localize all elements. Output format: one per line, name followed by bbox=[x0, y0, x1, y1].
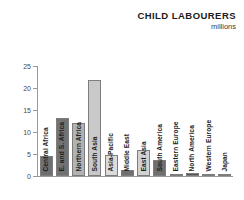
bar[interactable] bbox=[170, 174, 183, 176]
bar-category-label: Japan bbox=[221, 152, 228, 172]
x-axis-line bbox=[37, 176, 233, 177]
bar-category-label: South America bbox=[156, 124, 163, 172]
bar-category-label: South Asia bbox=[91, 137, 98, 172]
chart-header: CHILD LABOURERS millions bbox=[137, 10, 236, 32]
y-tick-label: 10 bbox=[23, 129, 31, 136]
bar-category-label: Western Europe bbox=[205, 120, 212, 172]
bar[interactable] bbox=[218, 174, 231, 176]
bar-category-label: North America bbox=[189, 126, 196, 173]
y-tick-mark bbox=[33, 88, 37, 89]
bar-group[interactable]: Western Europe bbox=[202, 66, 215, 176]
chart-title: CHILD LABOURERS bbox=[137, 10, 236, 21]
bar-group[interactable]: Eastern Europe bbox=[170, 66, 183, 176]
bar-category-label: Asia-Pacific bbox=[108, 133, 115, 172]
y-tick-mark bbox=[33, 154, 37, 155]
bar-group[interactable]: South Asia bbox=[88, 66, 101, 176]
bar-group[interactable]: South America bbox=[153, 66, 166, 176]
y-tick-label: 0 bbox=[27, 173, 31, 180]
y-tick-mark bbox=[33, 176, 37, 177]
bar-group[interactable]: Asia-Pacific bbox=[105, 66, 118, 176]
plot-area: 0510152025 Central AfricaE. and S. Afric… bbox=[37, 66, 233, 177]
bar[interactable] bbox=[186, 173, 199, 176]
y-tick-label: 25 bbox=[23, 63, 31, 70]
bar-category-label: E. and S. Africa bbox=[59, 122, 66, 172]
chart-subtitle: millions bbox=[137, 22, 236, 32]
bar-category-label: Northern Africa bbox=[75, 122, 82, 172]
y-tick-mark bbox=[33, 66, 37, 67]
y-tick-mark bbox=[33, 132, 37, 133]
bar-category-label: East Asia bbox=[140, 142, 147, 172]
bar-group[interactable]: Japan bbox=[218, 66, 231, 176]
bar-group[interactable]: Northern Africa bbox=[72, 66, 85, 176]
y-tick-label: 15 bbox=[23, 107, 31, 114]
bar-category-label: Middle East bbox=[124, 134, 131, 172]
y-tick-label: 5 bbox=[27, 151, 31, 158]
bar-group[interactable]: Middle East bbox=[121, 66, 134, 176]
y-tick-mark bbox=[33, 110, 37, 111]
bar-series: Central AfricaE. and S. AfricaNorthern A… bbox=[38, 66, 233, 176]
bar-group[interactable]: North America bbox=[186, 66, 199, 176]
bar-group[interactable]: East Asia bbox=[137, 66, 150, 176]
y-tick-label: 20 bbox=[23, 85, 31, 92]
bar[interactable] bbox=[202, 174, 215, 176]
bar-group[interactable]: E. and S. Africa bbox=[56, 66, 69, 176]
bar-category-label: Eastern Europe bbox=[173, 122, 180, 172]
bar-category-label: Central Africa bbox=[43, 128, 50, 172]
chart-container: CHILD LABOURERS millions 0510152025 Cent… bbox=[0, 0, 244, 200]
bar-group[interactable]: Central Africa bbox=[40, 66, 53, 176]
